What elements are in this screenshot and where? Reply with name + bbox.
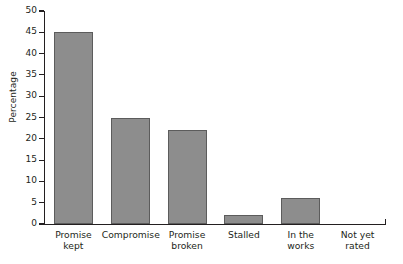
y-tick-mark bbox=[39, 53, 44, 54]
category-label-line: Stalled bbox=[216, 229, 273, 240]
y-tick-label: 20 bbox=[3, 134, 37, 143]
category-label-line: Compromise bbox=[102, 229, 159, 240]
y-tick-label: 25 bbox=[3, 113, 37, 122]
y-tick-mark bbox=[39, 223, 44, 224]
y-tick-label: 0 bbox=[3, 219, 37, 228]
x-axis-category-label: Not yetrated bbox=[329, 229, 386, 251]
bar bbox=[54, 32, 93, 224]
plot-area bbox=[45, 11, 386, 224]
y-tick-mark bbox=[39, 117, 44, 118]
bar bbox=[281, 198, 320, 224]
y-tick-label: 35 bbox=[3, 70, 37, 79]
y-tick-mark bbox=[39, 32, 44, 33]
bar bbox=[224, 215, 263, 224]
category-label-line: Not yet bbox=[329, 229, 386, 240]
y-tick-label: 15 bbox=[3, 155, 37, 164]
y-tick-label: 50 bbox=[3, 6, 37, 15]
x-axis-category-label: Promisebroken bbox=[159, 229, 216, 251]
x-axis-category-label: In theworks bbox=[272, 229, 329, 251]
x-axis-category-label: Stalled bbox=[216, 229, 273, 240]
y-tick-label: 10 bbox=[3, 176, 37, 185]
category-label-line: broken bbox=[159, 240, 216, 251]
y-tick-mark bbox=[39, 96, 44, 97]
y-tick-label: 40 bbox=[3, 49, 37, 58]
y-tick-mark bbox=[39, 181, 44, 182]
category-label-line: rated bbox=[329, 240, 386, 251]
x-axis-line bbox=[44, 224, 386, 225]
y-tick-mark bbox=[39, 138, 44, 139]
y-tick-mark bbox=[39, 160, 44, 161]
y-tick-mark bbox=[39, 202, 44, 203]
y-tick-label: 30 bbox=[3, 91, 37, 100]
bar bbox=[168, 130, 207, 224]
x-axis-category-label: Promisekept bbox=[45, 229, 102, 251]
category-label-line: works bbox=[272, 240, 329, 251]
category-label-line: Promise bbox=[45, 229, 102, 240]
category-label-line: kept bbox=[45, 240, 102, 251]
y-tick-mark bbox=[39, 10, 44, 11]
category-label-line: In the bbox=[272, 229, 329, 240]
y-tick-label: 5 bbox=[3, 198, 37, 207]
bar bbox=[111, 118, 150, 225]
y-tick-label: 45 bbox=[3, 27, 37, 36]
x-axis-category-label: Compromise bbox=[102, 229, 159, 240]
bar-chart: Percentage 05101520253035404550 Promisek… bbox=[0, 0, 403, 264]
category-label-line: Promise bbox=[159, 229, 216, 240]
y-tick-mark bbox=[39, 74, 44, 75]
